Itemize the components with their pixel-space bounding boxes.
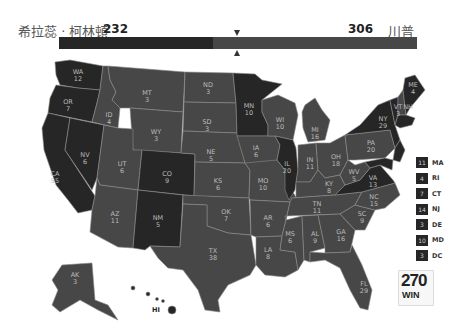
legend-row-dc[interactable]: 3DC [416, 248, 444, 264]
svg-text:16: 16 [337, 235, 345, 243]
svg-text:5: 5 [352, 175, 356, 183]
label-HI: HI [152, 306, 160, 314]
svg-text:18: 18 [332, 160, 340, 168]
svg-text:4: 4 [411, 88, 415, 96]
svg-text:38: 38 [209, 254, 217, 262]
svg-text:6: 6 [254, 151, 258, 159]
state-AK[interactable] [52, 263, 118, 320]
svg-text:7: 7 [224, 215, 228, 223]
svg-text:3: 3 [154, 135, 158, 143]
svg-text:3: 3 [205, 125, 209, 133]
legend-row-nj[interactable]: 14NJ [416, 202, 444, 218]
svg-text:6: 6 [288, 237, 292, 245]
svg-text:13: 13 [369, 181, 377, 189]
svg-text:6: 6 [120, 167, 124, 175]
svg-text:10: 10 [276, 123, 284, 131]
svg-text:9: 9 [313, 237, 317, 245]
small-states-legend: 11MA 4RI 7CT 14NJ 3DE 10MD 3DC [416, 155, 444, 264]
svg-text:6: 6 [266, 221, 270, 229]
svg-text:12: 12 [74, 75, 82, 83]
svg-text:20: 20 [367, 146, 375, 154]
svg-text:4: 4 [107, 118, 111, 126]
svg-text:11: 11 [111, 217, 119, 225]
legend-row-ri[interactable]: 4RI [416, 171, 444, 187]
svg-text:5: 5 [156, 221, 160, 229]
svg-text:11: 11 [313, 207, 321, 215]
svg-text:8: 8 [327, 187, 331, 195]
svg-text:3: 3 [145, 96, 149, 104]
270towin-logo[interactable]: 270 WIN [398, 270, 434, 306]
us-electoral-map: WA12 OR7 CA55 NV6 ID4 MT3 WY3 UT6 AZ11 C… [0, 0, 454, 335]
legend-row-ct[interactable]: 7CT [416, 186, 444, 202]
svg-text:10: 10 [245, 109, 253, 117]
svg-text:15: 15 [370, 200, 378, 208]
svg-text:55: 55 [51, 177, 59, 185]
label-NH: NH [403, 103, 413, 111]
svg-text:6: 6 [216, 184, 220, 192]
svg-text:11: 11 [306, 163, 314, 171]
svg-text:3: 3 [73, 278, 77, 286]
svg-text:16: 16 [311, 133, 319, 141]
svg-text:29: 29 [360, 287, 368, 295]
legend-row-ma[interactable]: 11MA [416, 155, 444, 171]
legend-row-md[interactable]: 10MD [416, 233, 444, 249]
svg-text:3: 3 [206, 88, 210, 96]
svg-text:5: 5 [209, 155, 213, 163]
svg-text:20: 20 [283, 167, 291, 175]
svg-text:10: 10 [259, 184, 267, 192]
svg-text:7: 7 [66, 105, 70, 113]
svg-text:9: 9 [165, 177, 169, 185]
svg-text:3: 3 [396, 110, 400, 118]
svg-text:8: 8 [266, 253, 270, 261]
state-FL[interactable] [310, 245, 372, 310]
svg-text:6: 6 [83, 158, 87, 166]
svg-text:29: 29 [379, 122, 387, 130]
svg-text:9: 9 [360, 217, 364, 225]
legend-row-de[interactable]: 3DE [416, 217, 444, 233]
